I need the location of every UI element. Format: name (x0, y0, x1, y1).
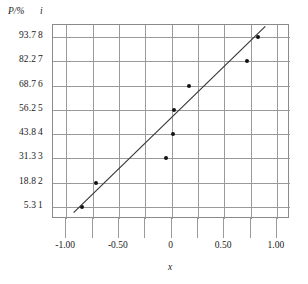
data-point (172, 108, 176, 112)
y-tick-label-p: 93.7 (0, 30, 36, 40)
y-tick-label-i: 2 (38, 176, 48, 186)
gridline-vertical (224, 25, 225, 219)
x-tick-label: 1.00 (268, 240, 285, 250)
x-tick-mark (171, 218, 172, 238)
y-tick-label-p: 82.2 (0, 54, 36, 64)
plot-area (52, 24, 289, 218)
gridline-vertical (66, 25, 67, 219)
y-tick-label-p: 56.2 (0, 103, 36, 113)
y-tick-label-p: 43.8 (0, 127, 36, 137)
y-tick-label-i: 4 (38, 127, 48, 137)
x-tick-label: 0.50 (215, 240, 232, 250)
x-tick-mark (92, 218, 93, 238)
data-point (256, 35, 260, 39)
gridline-vertical (277, 25, 278, 219)
y-tick-label-i: 3 (38, 151, 48, 161)
x-tick-label: -1.00 (55, 240, 75, 250)
y-tick-label-i: 1 (38, 200, 48, 210)
data-point (80, 205, 84, 209)
right-axis-header: i (40, 6, 43, 16)
y-tick-label-i: 7 (38, 54, 48, 64)
gridline-vertical (198, 25, 199, 219)
y-tick-label-p: 31.3 (0, 151, 36, 161)
x-tick-label: 0 (168, 240, 173, 250)
data-point (171, 132, 175, 136)
y-tick-label-i: 8 (38, 30, 48, 40)
data-point (94, 181, 98, 185)
x-tick-mark (144, 218, 145, 238)
y-tick-label-p: 68.7 (0, 79, 36, 89)
x-tick-mark (223, 218, 224, 238)
data-point (164, 156, 168, 160)
x-tick-mark (118, 218, 119, 238)
x-tick-mark (250, 218, 251, 238)
gridline-vertical (145, 25, 146, 219)
data-point (187, 84, 191, 88)
normal-probability-plot: P/% i 93.7882.2768.7656.2543.8431.3318.8… (0, 0, 308, 284)
x-tick-mark (65, 218, 66, 238)
y-tick-label-p: 18.8 (0, 176, 36, 186)
left-axis-header: P/% (8, 6, 24, 16)
gridline-vertical (251, 25, 252, 219)
x-tick-label: -0.50 (108, 240, 128, 250)
data-point (245, 59, 249, 63)
x-axis-title: x (150, 262, 190, 272)
y-tick-label-i: 5 (38, 103, 48, 113)
gridline-vertical (93, 25, 94, 219)
y-tick-label-p: 5.3 (0, 200, 36, 210)
y-tick-label-i: 6 (38, 79, 48, 89)
x-tick-mark (276, 218, 277, 238)
x-tick-mark (197, 218, 198, 238)
gridline-vertical (172, 25, 173, 219)
gridline-vertical (119, 25, 120, 219)
